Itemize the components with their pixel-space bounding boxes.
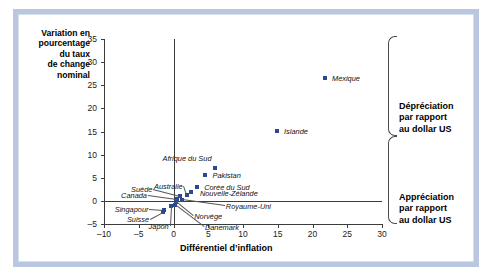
figure-root: Variation en pourcentage du taux de chan… (0, 0, 492, 280)
y-tick-25 (101, 85, 105, 86)
data-label-12: Japon (149, 222, 169, 231)
x-tick-30 (382, 224, 383, 228)
data-point-5 (189, 190, 193, 194)
y-tick-label-20: 20 (77, 103, 97, 113)
plot-area: –505101520253035–10–5051015202530Mexique… (0, 0, 492, 280)
data-label-13: Singapour (115, 205, 149, 214)
x-tick-0 (174, 224, 175, 228)
appreciation-brace (388, 136, 397, 224)
appreciation-line-3: au dollar US (399, 215, 454, 226)
x-tick--10 (104, 224, 105, 228)
data-label-9: Royaume-Uni (226, 202, 271, 211)
data-label-0: Mexique (332, 74, 360, 83)
y-tick-label--5: –5 (77, 219, 97, 229)
data-label-10: Norvège (194, 212, 222, 221)
depreciation-line-1: Dépréciation (399, 101, 454, 112)
x-tick-15 (278, 224, 279, 228)
x-tick-25 (347, 224, 348, 228)
y-tick-label-25: 25 (77, 80, 97, 90)
appreciation-line-1: Appréciation (399, 192, 454, 203)
data-point-2 (213, 166, 217, 170)
x-tick-20 (313, 224, 314, 228)
leader-line-10 (176, 201, 194, 216)
data-point-1 (275, 129, 279, 133)
data-label-3: Pakistan (212, 171, 240, 180)
appreciation-annotation: Appréciation par rapport au dollar US (399, 192, 454, 226)
y-tick-5 (101, 178, 105, 179)
x-tick-label-20: 20 (300, 229, 326, 239)
data-label-14: Suisse (127, 215, 149, 224)
x-tick-label--10: –10 (91, 229, 117, 239)
leader-line-6 (183, 186, 187, 195)
data-point-0 (323, 76, 327, 80)
data-point-3 (203, 173, 207, 177)
x-tick-10 (243, 224, 244, 228)
x-tick-label-25: 25 (334, 229, 360, 239)
data-label-1: Islande (284, 127, 308, 136)
data-label-11: Danemark (205, 223, 239, 232)
y-tick-label-5: 5 (77, 173, 97, 183)
data-label-8: Canada (121, 191, 147, 200)
data-point-4 (195, 185, 199, 189)
y-tick-10 (101, 155, 105, 156)
y-tick-label-10: 10 (77, 150, 97, 160)
y-tick-15 (101, 132, 105, 133)
x-tick--5 (139, 224, 140, 228)
y-tick-30 (101, 62, 105, 63)
data-label-5: Nouvelle-Zélande (200, 189, 258, 198)
x-tick-label-30: 30 (369, 229, 395, 239)
y-tick-label-35: 35 (77, 34, 97, 44)
x-tick-label-15: 15 (265, 229, 291, 239)
depreciation-annotation: Dépréciation par rapport au dollar US (399, 101, 454, 135)
leader-line-14 (150, 212, 163, 220)
appreciation-line-2: par rapport (399, 203, 454, 214)
y-tick-35 (101, 39, 105, 40)
y-tick-label-15: 15 (77, 127, 97, 137)
data-label-2: Afrique du Sud (163, 154, 212, 163)
depreciation-brace (388, 36, 397, 136)
y-tick-20 (101, 108, 105, 109)
y-tick-label-0: 0 (77, 196, 97, 206)
depreciation-line-2: par rapport (399, 112, 454, 123)
depreciation-line-3: au dollar US (399, 124, 454, 135)
y-tick-0 (101, 201, 105, 202)
y-tick-label-30: 30 (77, 57, 97, 67)
